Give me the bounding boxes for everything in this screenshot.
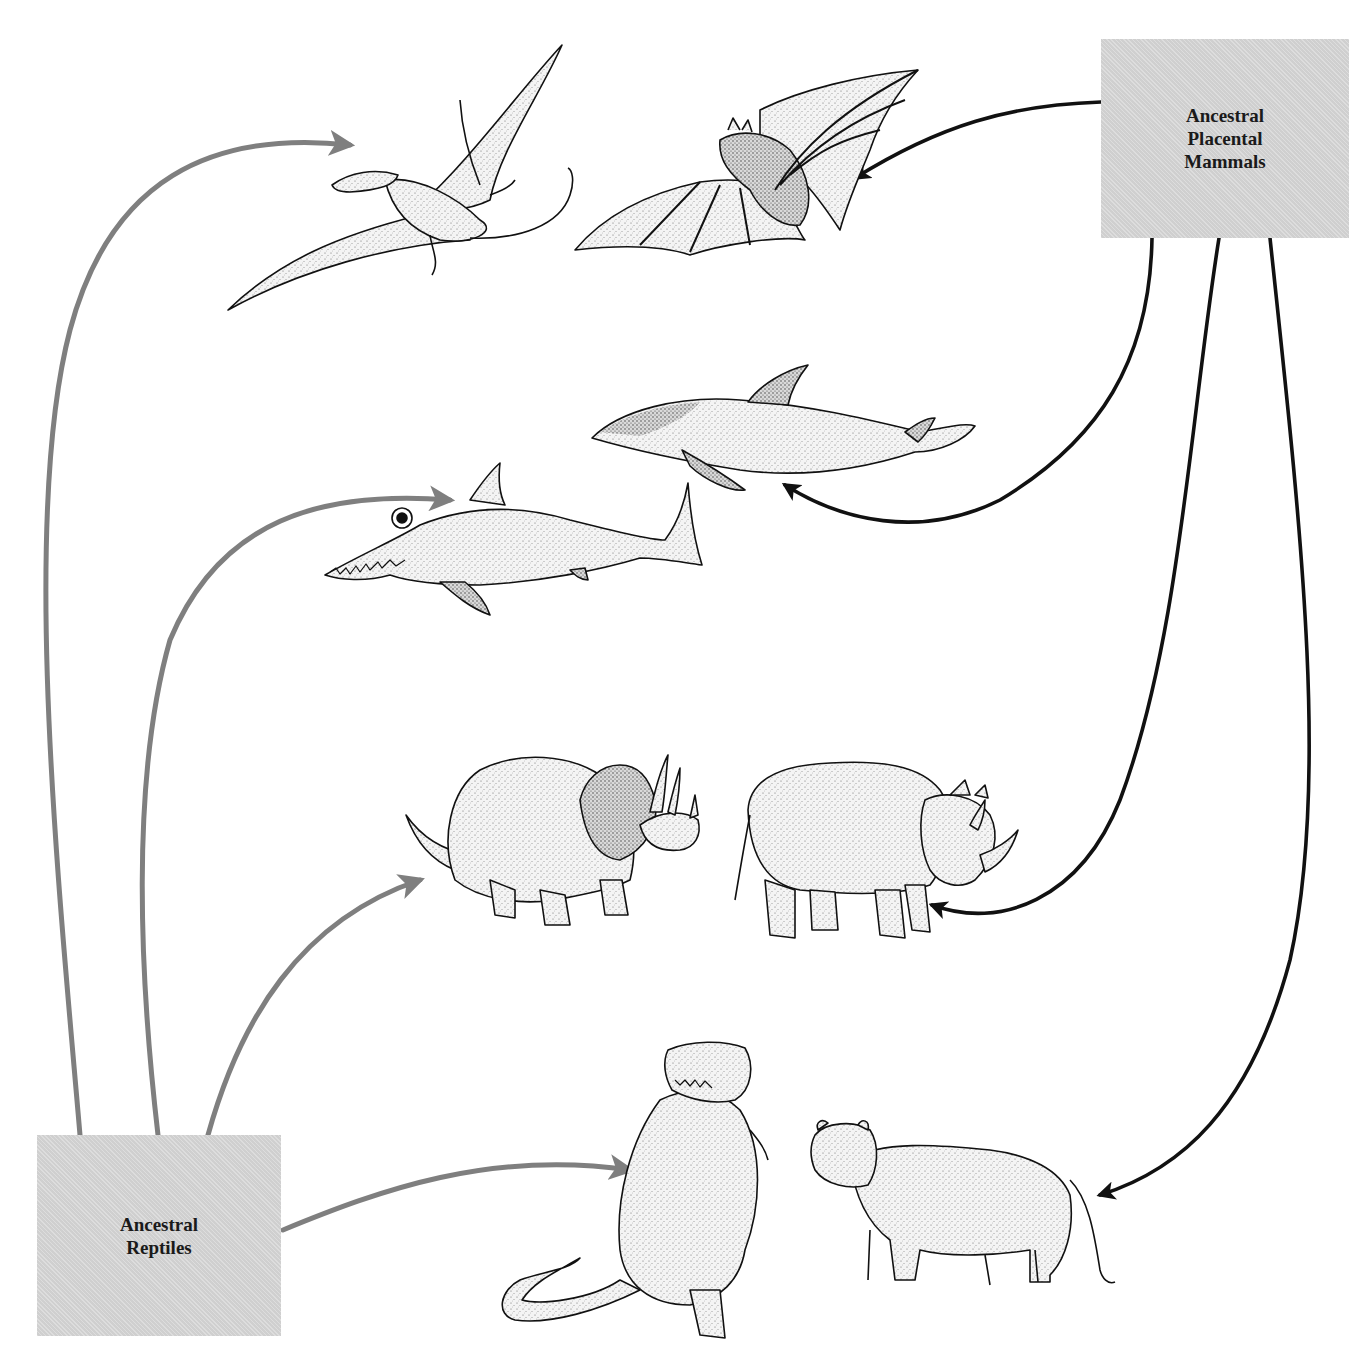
arrow-reptiles-to-triceratops [208, 880, 420, 1135]
rhino-ears [950, 780, 988, 798]
pterosaur-upper-wing [420, 45, 562, 209]
mammals-label-line-1: Ancestral [1184, 104, 1265, 127]
triceratops-horns [650, 755, 698, 818]
dolphin-illustration [592, 365, 975, 490]
reptiles-label-line-1: Ancestral [120, 1213, 198, 1236]
arrow-mammals-to-bat [855, 102, 1101, 178]
arrow-reptiles-to-pterosaur [46, 142, 350, 1135]
ichthyosaur-dorsal-fin [470, 463, 505, 505]
triceratops-illustration [406, 755, 699, 925]
arrow-reptiles-to-ichthyosaur [142, 498, 450, 1135]
lion-body [850, 1146, 1071, 1282]
pterosaur-illustration [228, 45, 573, 310]
lion-head [811, 1124, 876, 1187]
arrow-mammals-to-dolphin [785, 238, 1152, 522]
tyrannosaur-body [619, 1091, 757, 1305]
mammal-arrows [785, 102, 1309, 1195]
tyrannosaur-leg [690, 1290, 725, 1338]
rhino-tail [735, 815, 750, 900]
tyrannosaur-tail [502, 1258, 640, 1321]
arrow-reptiles-to-tyrannosaur [283, 1165, 630, 1230]
mammals-label-line-2: Placental [1184, 127, 1265, 150]
ancestral-placental-mammals-box: Ancestral Placental Mammals [1101, 39, 1349, 238]
dolphin-dorsal-fin [748, 365, 808, 405]
ichthyosaur-illustration [325, 463, 702, 615]
tyrannosaur-illustration [502, 1042, 768, 1338]
bat-ears [728, 118, 752, 132]
ichthyosaur-front-flipper [440, 582, 490, 615]
bat-illustration [575, 70, 918, 255]
reptile-arrows [46, 142, 630, 1230]
lion-tail [1070, 1180, 1115, 1283]
rhino-body [748, 762, 949, 893]
convergent-evolution-diagram: Ancestral Placental Mammals Ancestral Re… [0, 0, 1370, 1353]
tyrannosaur-head [665, 1042, 751, 1102]
mammals-box-label: Ancestral Placental Mammals [1184, 104, 1265, 173]
lion-illustration [811, 1121, 1115, 1285]
reptiles-box-label: Ancestral Reptiles [120, 1213, 198, 1259]
arrow-mammals-to-lion [1100, 238, 1309, 1195]
reptiles-label-line-2: Reptiles [120, 1236, 198, 1259]
ichthyosaur-pupil [397, 513, 407, 523]
ancestral-reptiles-box: Ancestral Reptiles [37, 1135, 281, 1336]
mammals-label-line-3: Mammals [1184, 150, 1265, 173]
